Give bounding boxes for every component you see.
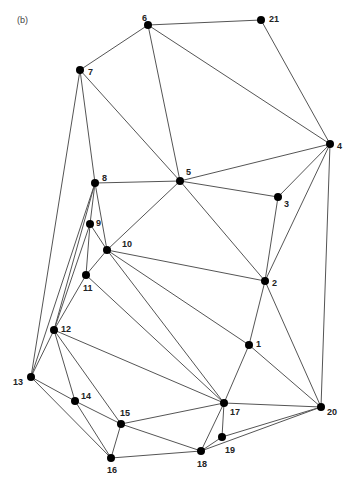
edge-6-4 xyxy=(148,25,330,144)
node-dot-icon xyxy=(91,179,99,187)
edge-5-2 xyxy=(180,181,265,281)
node-label: 15 xyxy=(120,408,130,418)
edge-1-20 xyxy=(249,345,321,407)
edge-2-1 xyxy=(249,281,265,345)
node-label: 12 xyxy=(61,324,71,334)
node-dot-icon xyxy=(245,341,253,349)
edge-21-4 xyxy=(261,20,330,144)
edge-15-17 xyxy=(121,403,224,424)
node-label: 1 xyxy=(256,339,261,349)
node-12: 12 xyxy=(50,324,71,334)
node-dot-icon xyxy=(218,433,226,441)
node-dot-icon xyxy=(197,447,205,455)
node-label: 14 xyxy=(81,391,91,401)
node-label: 8 xyxy=(102,173,107,183)
edge-9-11 xyxy=(86,224,90,275)
edge-4-2 xyxy=(265,144,330,281)
node-14: 14 xyxy=(71,391,91,405)
node-dot-icon xyxy=(86,220,94,228)
edge-8-5 xyxy=(95,181,180,183)
node-label: 5 xyxy=(186,167,191,177)
node-dot-icon xyxy=(27,373,35,381)
node-dot-icon xyxy=(82,271,90,279)
node-dot-icon xyxy=(326,140,334,148)
node-label: 9 xyxy=(96,218,101,228)
node-dot-icon xyxy=(176,177,184,185)
edge-12-14 xyxy=(54,330,75,401)
edge-4-5 xyxy=(180,144,330,181)
edge-15-18 xyxy=(121,424,201,451)
node-21: 21 xyxy=(257,14,279,24)
edge-6-5 xyxy=(148,25,180,181)
node-dot-icon xyxy=(107,454,115,462)
node-dot-icon xyxy=(220,399,228,407)
node-dot-icon xyxy=(117,420,125,428)
node-15: 15 xyxy=(117,408,130,428)
edge-17-19 xyxy=(222,403,224,437)
edge-8-12 xyxy=(54,183,95,330)
edge-layer xyxy=(31,20,330,458)
node-dot-icon xyxy=(257,16,265,24)
edge-6-21 xyxy=(148,20,261,25)
edge-5-10 xyxy=(107,181,180,250)
edge-4-20 xyxy=(321,144,330,407)
edge-2-20 xyxy=(265,281,321,407)
node-20: 20 xyxy=(317,403,337,417)
edge-11-17 xyxy=(86,275,224,403)
node-label: 10 xyxy=(122,239,132,249)
node-dot-icon xyxy=(317,403,325,411)
node-label: 4 xyxy=(337,141,342,151)
node-dot-icon xyxy=(103,246,111,254)
node-label: 7 xyxy=(88,67,93,77)
node-label: 11 xyxy=(83,283,93,293)
node-dot-icon xyxy=(71,397,79,405)
node-label: 2 xyxy=(272,278,277,288)
node-11: 11 xyxy=(82,271,93,293)
node-6: 6 xyxy=(142,13,152,29)
node-label: 19 xyxy=(225,445,235,455)
node-label: 13 xyxy=(13,377,23,387)
node-18: 18 xyxy=(197,447,207,469)
graph-diagram: 123456789101112131415161718192021 xyxy=(0,0,354,486)
node-label: 17 xyxy=(230,407,240,417)
node-4: 4 xyxy=(326,140,342,151)
node-dot-icon xyxy=(76,66,84,74)
edge-7-8 xyxy=(80,70,95,183)
node-label: 3 xyxy=(284,199,289,209)
node-label: 16 xyxy=(107,465,117,475)
node-9: 9 xyxy=(86,218,101,228)
edge-5-3 xyxy=(180,181,278,197)
node-dot-icon xyxy=(261,277,269,285)
node-8: 8 xyxy=(91,173,107,187)
edge-16-18 xyxy=(111,451,201,458)
edge-7-5 xyxy=(80,70,180,181)
edge-1-17 xyxy=(224,345,249,403)
edge-6-7 xyxy=(80,25,148,70)
node-label: 21 xyxy=(269,14,279,24)
node-13: 13 xyxy=(13,373,35,387)
edge-10-11 xyxy=(86,250,107,275)
node-dot-icon xyxy=(274,193,282,201)
node-label: 20 xyxy=(327,407,337,417)
node-dot-icon xyxy=(50,326,58,334)
edge-13-14 xyxy=(31,377,75,401)
node-label: 18 xyxy=(197,459,207,469)
edge-15-16 xyxy=(111,424,121,458)
node-label: 6 xyxy=(142,13,147,23)
edge-4-3 xyxy=(278,144,330,197)
edge-8-13 xyxy=(31,183,95,377)
edge-10-17 xyxy=(107,250,224,403)
